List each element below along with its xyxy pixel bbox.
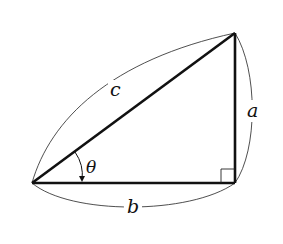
hypotenuse-side (32, 33, 235, 183)
hypotenuse-label: c (110, 78, 121, 100)
right-angle-marker (221, 169, 235, 183)
opposite-label: a (247, 99, 258, 121)
adjacent-label: b (127, 195, 139, 217)
angle-arrowhead-icon (79, 176, 85, 182)
angle-arc (75, 152, 82, 180)
right-triangle-diagram: c a b θ (0, 0, 283, 244)
angle-label: θ (86, 157, 96, 177)
